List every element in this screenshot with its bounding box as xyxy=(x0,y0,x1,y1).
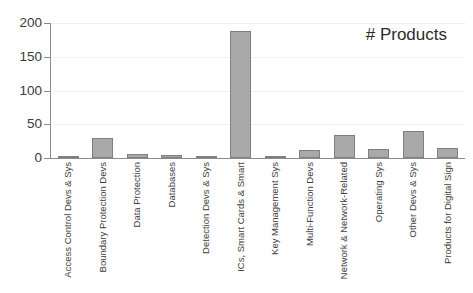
x-axis-label-text: Multi-Function Devs xyxy=(305,162,315,246)
x-axis-label-text: Key Management Sys xyxy=(271,162,281,255)
y-tick-label-50: 50 xyxy=(8,118,42,132)
y-tick-150 xyxy=(44,57,50,58)
bar xyxy=(334,135,355,158)
y-tick-200 xyxy=(44,23,50,24)
x-axis-label: ICs, Smart Cards & Smart xyxy=(224,162,259,290)
bar xyxy=(299,150,320,158)
x-axis-label: Data Protection xyxy=(120,162,155,290)
x-axis-label: Detection Devs & Sys xyxy=(189,162,224,290)
x-axis-label-text: Access Control Devs & Sys xyxy=(64,162,74,278)
x-axis-label-text: ICs, Smart Cards & Smart xyxy=(236,162,246,272)
y-tick-label-150: 150 xyxy=(8,50,42,64)
chart-title: # Products xyxy=(366,26,447,43)
bar xyxy=(403,131,424,158)
x-axis-label: Operating Sys xyxy=(362,162,397,290)
y-tick-label-0: 0 xyxy=(8,151,42,165)
x-axis-label-text: Databases xyxy=(167,162,177,207)
x-axis-label-text: Boundary Protection Devs xyxy=(98,162,108,272)
x-axis-label: Products for Digital Sign xyxy=(431,162,466,290)
bar xyxy=(368,149,389,158)
x-axis-label-text: Network & Network-Related xyxy=(340,162,350,279)
x-axis-label: Key Management Sys xyxy=(258,162,293,290)
x-axis-label-text: Other Devs & Sys xyxy=(409,162,419,238)
y-tick-50 xyxy=(44,124,50,125)
x-axis-label: Multi-Function Devs xyxy=(293,162,328,290)
bar xyxy=(437,148,458,158)
x-axis-labels: Access Control Devs & SysBoundary Protec… xyxy=(51,162,465,290)
x-axis-label: Other Devs & Sys xyxy=(396,162,431,290)
x-axis-label-text: Data Protection xyxy=(133,162,143,227)
bar xyxy=(230,31,251,158)
y-tick-100 xyxy=(44,91,50,92)
x-axis-label-text: Detection Devs & Sys xyxy=(202,162,212,254)
x-axis-label: Network & Network-Related xyxy=(327,162,362,290)
y-tick-label-100: 100 xyxy=(8,84,42,98)
bar xyxy=(92,138,113,158)
x-axis-baseline xyxy=(50,158,465,159)
x-axis-label: Access Control Devs & Sys xyxy=(51,162,86,290)
x-axis-label-text: Products for Digital Sign xyxy=(443,162,453,264)
y-tick-label-200: 200 xyxy=(8,16,42,30)
x-axis-label: Boundary Protection Devs xyxy=(86,162,121,290)
chart-container: 200 150 100 50 0 Access Control Devs & S… xyxy=(0,0,473,293)
x-axis-label-text: Operating Sys xyxy=(374,162,384,222)
x-axis-label: Databases xyxy=(155,162,190,290)
